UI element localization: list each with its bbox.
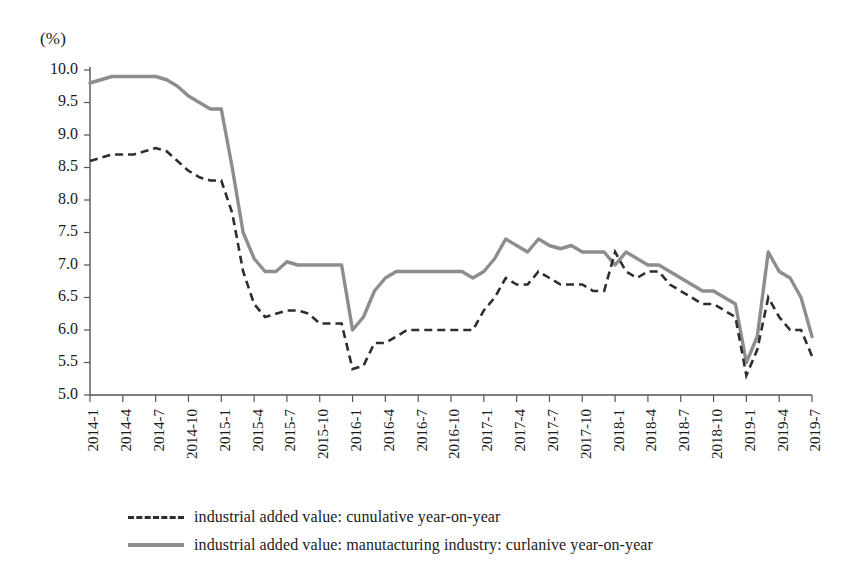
y-axis-tick-label: 6.5 [58,287,78,304]
y-axis-tick-label: 8.5 [58,157,78,174]
x-axis-tick-label: 2015-4 [250,409,266,452]
x-axis-tick-label: 2014-7 [151,409,167,452]
y-axis-tick-label: 8.0 [58,190,78,207]
x-axis-tick-label: 2016-1 [348,409,364,452]
chart-plot-area: 5.05.56.06.57.07.58.08.59.09.510.0 2014-… [0,0,855,588]
x-axis-tick-label: 2017-4 [512,409,528,452]
y-axis-tick-marks [84,70,90,395]
y-axis-tick-label: 5.0 [58,385,78,402]
x-axis-tick-label: 2018-1 [611,409,627,452]
y-axis-tick-label: 5.5 [58,352,78,369]
y-axis-tick-label: 10.0 [50,60,78,77]
x-axis-tick-label: 2014-1 [85,409,101,452]
x-axis-tick-label: 2018-10 [709,409,725,459]
x-axis-tick-label: 2015-7 [282,409,298,452]
y-axis-tick-label: 7.0 [58,255,78,272]
x-axis-tick-label: 2014-4 [118,409,134,452]
y-axis-tick-label: 7.5 [58,222,78,239]
x-axis-tick-label: 2019-7 [807,409,823,452]
x-axis-tick-label: 2017-10 [578,409,594,459]
y-axis-tick-label: 9.5 [58,92,78,109]
y-axis-tick-labels: 5.05.56.06.57.07.58.08.59.09.510.0 [50,60,78,402]
x-axis-tick-label: 2017-7 [545,409,561,452]
x-axis-tick-labels: 2014-12014-42014-72014-102015-12015-4201… [85,409,823,459]
y-axis-tick-label: 6.0 [58,320,78,337]
x-axis-tick-label: 2016-4 [381,409,397,452]
x-axis-tick-label: 2018-7 [676,409,692,452]
legend-label-manufacturing: industrial added value: manutacturing in… [194,536,653,554]
legend-item-manufacturing: industrial added value: manutacturing in… [128,531,828,559]
legend-key-solid-icon [128,539,184,551]
x-axis-tick-label: 2015-10 [315,409,331,459]
x-axis-tick-label: 2018-4 [643,409,659,452]
legend-key-dashed-icon [128,511,184,523]
x-axis-tick-label: 2014-10 [184,409,200,459]
legend-label-cumulative: industrial added value: cunulative year-… [194,508,500,526]
x-axis-tick-label: 2016-7 [414,409,430,452]
chart-legend: industrial added value: cunulative year-… [128,503,828,559]
y-axis-tick-label: 9.0 [58,125,78,142]
legend-item-cumulative: industrial added value: cunulative year-… [128,503,828,531]
x-axis-tick-label: 2019-4 [775,409,791,452]
x-axis-tick-label: 2015-1 [217,409,233,452]
x-axis-tick-label: 2019-1 [742,409,758,452]
axis-frame [90,67,812,395]
x-axis-tick-label: 2016-10 [446,409,462,459]
series-line-cumulative [90,148,812,376]
x-axis-tick-label: 2017-1 [479,409,495,452]
chart-figure: (%) 5.05.56.06.57.07.58.08.59.09.510.0 2… [0,0,855,588]
x-axis-tick-marks [90,395,812,402]
series-line-manufacturing [90,77,812,363]
